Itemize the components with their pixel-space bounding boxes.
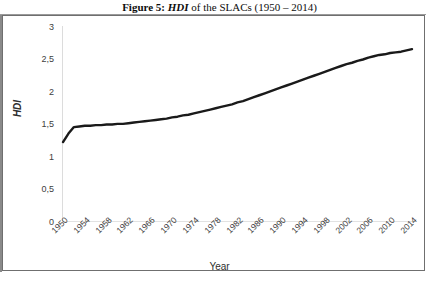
caption-rest: of the SLACs (1950 – 2014) — [189, 1, 317, 13]
figure-number: Figure 5: — [122, 1, 165, 13]
caption-italic-term: HDI — [168, 1, 189, 13]
x-axis-title: Year — [0, 261, 439, 272]
y-axis-title: HDI — [12, 100, 23, 117]
figure-frame — [2, 15, 425, 271]
figure-caption: Figure 5: HDI of the SLACs (1950 – 2014) — [0, 0, 439, 14]
